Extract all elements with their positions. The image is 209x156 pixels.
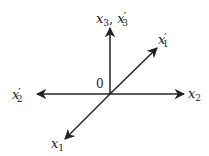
axis-x1 [65,94,110,139]
x3prime-sub: 3 [122,18,128,28]
label-x3-x3prime: x3, x′3 [96,11,128,28]
x2prime-sub: 2 [17,94,23,104]
label-x2prime: x′2 [12,87,23,104]
origin-label: 0 [96,78,104,90]
x1-sub: 1 [58,143,64,153]
label-x2: x2 [188,87,201,103]
x1prime-sub: 1 [163,39,169,49]
label-x1: x1 [51,137,64,153]
axis-x1-prime [110,48,157,94]
x2-sub: 2 [195,93,201,103]
label-x1prime: x′1 [158,32,169,49]
